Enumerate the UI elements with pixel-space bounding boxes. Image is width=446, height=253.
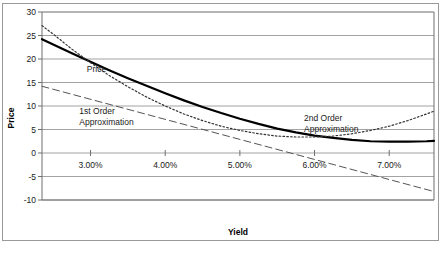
y-tick-label: 30 <box>27 7 37 17</box>
y-tick-label: -10 <box>24 195 37 205</box>
chart-canvas: 3.00%4.00%5.00%6.00%7.00% 302520151050-5… <box>0 0 446 253</box>
x-tick-label: 5.00% <box>228 160 253 170</box>
series-label-price: Price <box>87 64 107 74</box>
x-axis-tick-labels: 3.00%4.00%5.00%6.00%7.00% <box>78 160 401 170</box>
y-tick-label: 25 <box>27 31 37 41</box>
series-label-1st-order-approximation: 1st Order <box>79 106 115 116</box>
series-label-2nd-order-approximation: 2nd Order <box>304 113 342 123</box>
y-tick-label: 10 <box>27 101 37 111</box>
y-tick-label: 0 <box>31 148 36 158</box>
x-tick-label: 7.00% <box>377 160 402 170</box>
series-label-1st-order-approximation-line2: Approximation <box>79 117 134 127</box>
y-axis-tick-labels: 302520151050-5-10 <box>24 7 37 205</box>
y-axis-title: Price <box>6 107 16 128</box>
y-tick-label: 5 <box>31 125 36 135</box>
y-tick-label: 15 <box>27 78 37 88</box>
x-tick-label: 6.00% <box>302 160 327 170</box>
x-tick-label: 3.00% <box>78 160 103 170</box>
series-label-2nd-order-approximation-line2: Approximation <box>304 124 359 134</box>
x-tick-label: 4.00% <box>153 160 178 170</box>
y-axis-ticks <box>38 12 42 200</box>
y-tick-label: 20 <box>27 54 37 64</box>
chart-figure: 3.00%4.00%5.00%6.00%7.00% 302520151050-5… <box>0 0 446 253</box>
series-path-1st-order-approximation <box>42 86 434 191</box>
y-tick-label: -5 <box>28 172 36 182</box>
x-axis-title: Yield <box>228 227 248 237</box>
